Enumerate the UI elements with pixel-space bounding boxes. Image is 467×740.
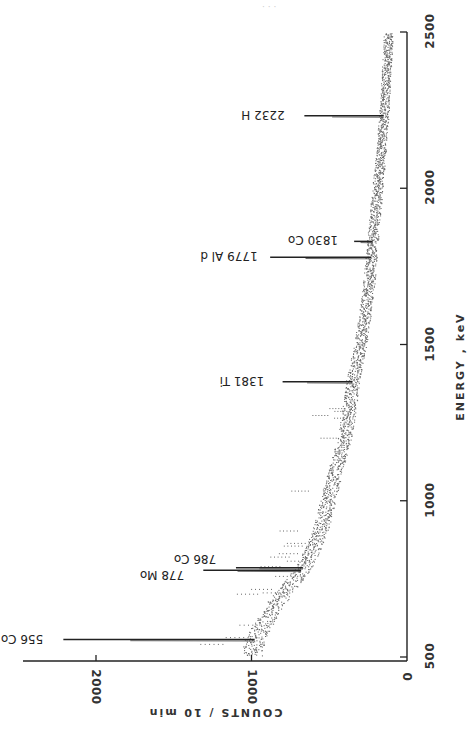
peak-label: 1830 Co <box>278 233 348 247</box>
counts-axis-title: COUNTS / 10 min <box>145 706 285 719</box>
energy-tick-label: 500 <box>423 631 437 681</box>
peak-label: 1779 Al d <box>194 249 264 263</box>
energy-tick-label: 2500 <box>423 6 437 56</box>
axes <box>23 32 407 661</box>
energy-axis-title: ENERGY , keV <box>454 297 467 437</box>
peak-label: 786 Co <box>160 552 230 566</box>
energy-tick-label: 1500 <box>423 319 437 369</box>
peak-label: 778 Mo <box>127 568 197 582</box>
peak-label: 556 Co <box>0 632 57 646</box>
peak-label: 2232 H <box>228 108 298 122</box>
energy-tick-label: 2000 <box>423 162 437 212</box>
energy-tick-label: 1000 <box>423 475 437 525</box>
counts-tick-label: 2000 <box>89 662 103 712</box>
peak-label: 1381 Ti <box>207 374 277 388</box>
counts-tick-label: 0 <box>400 652 414 702</box>
counts-tick-label: 1000 <box>245 662 259 712</box>
